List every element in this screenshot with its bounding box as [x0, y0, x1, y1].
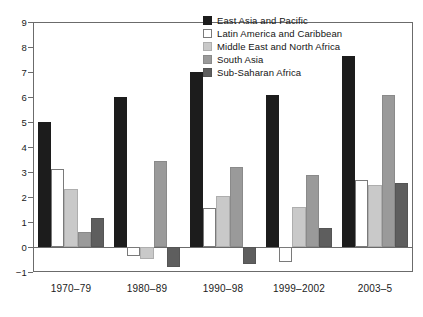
bar — [64, 189, 77, 247]
x-axis: 1970–791980–891990–981999–20022003–5 — [33, 275, 413, 317]
legend-item: South Asia — [203, 54, 342, 66]
legend-item: Sub-Saharan Africa — [203, 67, 342, 79]
bar — [368, 185, 381, 247]
bar — [190, 72, 203, 248]
y-axis-tick-label: 2 — [22, 192, 27, 203]
bar — [266, 95, 279, 248]
image-top-edge — [0, 0, 423, 3]
bar — [319, 228, 332, 247]
x-axis-tick-label: 2003–5 — [358, 283, 393, 294]
series-4-swatch — [203, 68, 212, 77]
chart-legend: East Asia and PacificLatin America and C… — [203, 14, 342, 79]
bar — [342, 56, 355, 248]
bar — [230, 167, 243, 247]
x-axis-tick-label: 1970–79 — [51, 283, 91, 294]
bar — [127, 247, 140, 256]
y-axis-tick-label: −1 — [16, 267, 27, 278]
bar — [279, 247, 292, 262]
y-axis: −10123456789 — [0, 0, 33, 317]
bar — [292, 207, 305, 247]
series-3-swatch — [203, 55, 212, 64]
legend-item: East Asia and Pacific — [203, 14, 342, 26]
series-0-swatch — [203, 16, 212, 25]
y-axis-tick-label: 5 — [22, 117, 27, 128]
legend-item-label: Sub-Saharan Africa — [217, 67, 301, 78]
bar — [395, 183, 408, 247]
bar — [203, 208, 216, 247]
y-axis-tick-label: 3 — [22, 167, 27, 178]
y-axis-tick-label: 9 — [22, 17, 27, 28]
bar — [355, 180, 368, 247]
legend-item-label: Latin America and Caribbean — [217, 28, 342, 39]
bar — [91, 218, 104, 247]
bar — [140, 247, 153, 259]
legend-item: Middle East and North Africa — [203, 40, 342, 52]
x-axis-tick-label: 1980–89 — [127, 283, 167, 294]
bar-chart: −10123456789 1970–791980–891990–981999–2… — [0, 0, 423, 317]
series-1-swatch — [203, 29, 212, 38]
bar — [167, 247, 180, 267]
legend-item-label: South Asia — [217, 54, 263, 65]
y-axis-tick-label: 4 — [22, 142, 27, 153]
bar — [114, 97, 127, 248]
y-axis-tick-label: 7 — [22, 67, 27, 78]
y-axis-tick-label: 6 — [22, 92, 27, 103]
bar — [51, 169, 64, 247]
series-2-swatch — [203, 42, 212, 51]
bar — [38, 122, 51, 248]
y-axis-tick-label: 1 — [22, 217, 27, 228]
bar — [154, 161, 167, 247]
y-axis-tick-label: 0 — [22, 242, 27, 253]
bar — [306, 175, 319, 247]
legend-item: Latin America and Caribbean — [203, 27, 342, 39]
bar — [216, 196, 229, 247]
x-axis-tick-label: 1999–2002 — [273, 283, 325, 294]
bar — [243, 247, 256, 264]
legend-item-label: Middle East and North Africa — [217, 41, 340, 52]
bar — [382, 95, 395, 247]
y-axis-tick-mark — [28, 272, 33, 273]
x-axis-tick-label: 1990–98 — [203, 283, 243, 294]
bar — [78, 232, 91, 248]
y-axis-tick-label: 8 — [22, 42, 27, 53]
legend-item-label: East Asia and Pacific — [217, 15, 308, 26]
